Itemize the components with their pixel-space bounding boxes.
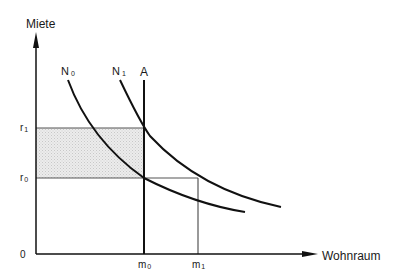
tick-label-r0: r0: [20, 172, 28, 183]
curve-label-n0: N0: [61, 65, 75, 77]
curve-label-n1: N1: [112, 65, 126, 77]
x-axis-arrow-icon: [302, 251, 318, 257]
tick-label-m0: m0: [138, 259, 151, 270]
y-axis-arrow-icon: [33, 32, 39, 48]
x-axis-label: Wohnraum: [322, 249, 380, 263]
tick-label-r1: r1: [20, 122, 28, 133]
supply-label-a: A: [140, 65, 148, 79]
shaded-area: [36, 128, 144, 178]
tick-label-m1: m1: [192, 259, 205, 270]
y-axis-label: Miete: [26, 17, 56, 31]
housing-market-diagram: Miete Wohnraum 0 N0 N1 A r1 r0 m0 m1: [0, 0, 397, 275]
origin-label: 0: [20, 249, 26, 260]
